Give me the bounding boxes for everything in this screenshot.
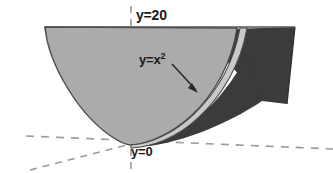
figure-canvas	[0, 0, 333, 173]
depth-axis	[30, 144, 131, 170]
label-y-equals-20: y=20	[136, 8, 167, 22]
label-y-equals-0: y=0	[131, 145, 152, 158]
curve-label-exponent: 2	[160, 51, 165, 61]
solid-of-revolution-figure: y=20 y=x2 y=0	[0, 0, 333, 173]
label-y-equals-x-squared: y=x2	[139, 53, 165, 66]
curve-label-base: y=x	[139, 52, 160, 67]
